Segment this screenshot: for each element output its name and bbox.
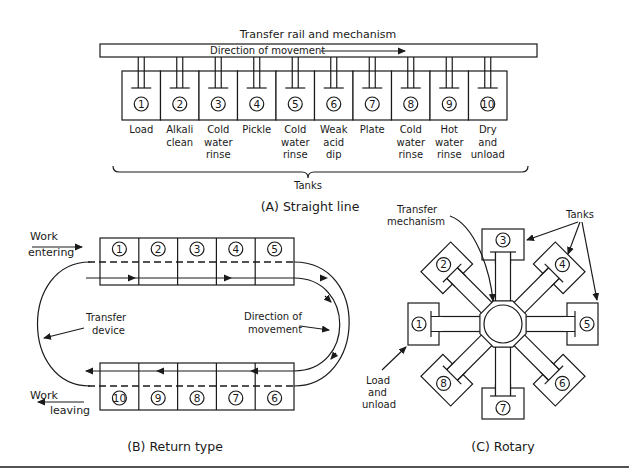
tank-label: Cold xyxy=(400,124,422,135)
tank-label: unload xyxy=(471,149,505,160)
transfer-mechanism-label-1: Transfer xyxy=(396,204,438,215)
tank-label: rinse xyxy=(206,149,231,160)
tank-4: 4Pickle xyxy=(238,57,277,135)
tank-8: 8Coldwaterrinse xyxy=(392,57,431,160)
tank-7: 7Plate xyxy=(353,57,392,135)
rail-label: Transfer rail and mechanism xyxy=(239,28,397,41)
tank-box xyxy=(161,71,200,120)
tank-label: rinse xyxy=(283,149,308,160)
tanks-pointer-1-icon xyxy=(527,222,578,240)
tank-number: 10 xyxy=(481,98,494,110)
tank-label: water xyxy=(435,137,464,148)
work-entering-label-2: entering xyxy=(28,246,74,259)
tank-label: Dry xyxy=(479,124,497,135)
rotary-tanks-label: Tanks xyxy=(565,209,594,220)
tank-number: 1 xyxy=(138,98,145,110)
tank-number: 6 xyxy=(559,377,566,389)
tank-number: 2 xyxy=(176,98,183,110)
tank-number: 7 xyxy=(232,392,239,404)
load-unload-label-3: unload xyxy=(362,399,396,410)
tank-box xyxy=(315,71,354,120)
direction-label: Direction of movement xyxy=(210,45,325,56)
tank-label: Plate xyxy=(360,124,385,135)
direction-label-2: movement xyxy=(248,324,302,335)
plating-line-diagram: Transfer rail and mechanism Direction of… xyxy=(0,0,629,474)
caption-rotary: (C) Rotary xyxy=(471,439,535,454)
tank-label: rinse xyxy=(398,149,423,160)
tank-2: 2Alkaliclean xyxy=(161,57,200,148)
tank-box xyxy=(276,71,315,120)
transfer-mechanism-hub xyxy=(480,301,526,347)
tank-number: 8 xyxy=(407,98,414,110)
tank-9: 9Hotwaterrinse xyxy=(430,57,469,160)
tank-number: 5 xyxy=(584,318,591,330)
transfer-device-label-1: Transfer xyxy=(85,312,127,323)
tanks-pointer-3-icon xyxy=(582,222,597,300)
tank-number: 7 xyxy=(369,98,376,110)
tank-box xyxy=(392,71,431,120)
work-leaving-label-2: leaving xyxy=(50,404,90,417)
load-unload-label-2: and xyxy=(368,387,387,398)
tank-label: Hot xyxy=(440,124,458,135)
return-type-section: 12345 109876 Work entering Work leaving … xyxy=(28,230,349,454)
tank-number: 5 xyxy=(292,98,299,110)
tank-number: 6 xyxy=(271,392,278,404)
straight-line-section: Transfer rail and mechanism Direction of… xyxy=(100,28,537,214)
transfer-mechanism-label-2: mechanism xyxy=(387,216,445,227)
tank-number: 4 xyxy=(559,258,566,270)
rotary-tank-5: 5 xyxy=(525,303,598,345)
tank-number: 8 xyxy=(194,392,201,404)
tank-6: 6Weakaciddip xyxy=(315,57,354,160)
loop-arrow-right-top xyxy=(325,296,331,302)
rotary-section: 12345678 Transfer mechanism Tanks Load a… xyxy=(362,204,598,454)
tank-label: dip xyxy=(326,149,341,160)
tank-box xyxy=(469,71,508,120)
tank-box xyxy=(238,71,277,120)
tanks-pointer-2-icon xyxy=(568,222,580,254)
tank-number: 8 xyxy=(440,377,447,389)
rotary-tank-1: 1 xyxy=(408,303,481,345)
tanks-brace xyxy=(113,166,528,178)
tank-box xyxy=(199,71,238,120)
tank-number: 4 xyxy=(232,243,239,255)
caption-return-type: (B) Return type xyxy=(127,439,223,454)
tanks-label: Tanks xyxy=(293,180,322,191)
tank-number: 4 xyxy=(253,98,260,110)
tank-number: 7 xyxy=(500,402,507,414)
tank-number: 2 xyxy=(155,243,162,255)
tank-5: 5Coldwaterrinse xyxy=(276,57,315,160)
load-unload-pointer-icon xyxy=(382,347,406,370)
tank-label: Load xyxy=(129,124,153,135)
tank-number: 10 xyxy=(113,392,126,404)
tank-label: and xyxy=(478,137,497,148)
tank-number: 3 xyxy=(500,234,507,246)
tank-box xyxy=(122,71,161,120)
work-leaving-label-1: Work xyxy=(30,389,58,402)
tank-number: 1 xyxy=(416,318,423,330)
tank-10: 10Dryandunload xyxy=(469,57,508,160)
tank-number: 9 xyxy=(155,392,162,404)
tank-number: 3 xyxy=(215,98,222,110)
tank-number: 6 xyxy=(330,98,337,110)
rotary-tank-3: 3 xyxy=(482,229,524,302)
flow-arrow-icon xyxy=(320,275,328,282)
tank-label: Pickle xyxy=(242,124,271,135)
tank-label: water xyxy=(281,137,310,148)
tank-row: 1Load2Alkaliclean3Coldwaterrinse4Pickle5… xyxy=(122,57,507,160)
tank-number: 3 xyxy=(194,243,201,255)
tank-label: Cold xyxy=(284,124,306,135)
load-unload-label-1: Load xyxy=(366,375,390,386)
tank-3: 3Coldwaterrinse xyxy=(199,57,238,160)
tank-label: Cold xyxy=(207,124,229,135)
tank-label: Alkali xyxy=(166,124,193,135)
tank-number: 1 xyxy=(116,243,123,255)
tank-label: acid xyxy=(323,137,344,148)
caption-straight-line: (A) Straight line xyxy=(261,199,360,214)
tank-number: 5 xyxy=(271,243,278,255)
tank-number: 2 xyxy=(440,258,447,270)
tank-1: 1Load xyxy=(122,57,161,135)
tank-label: water xyxy=(397,137,426,148)
work-entering-label-1: Work xyxy=(30,230,58,243)
transfer-device-pointer-icon xyxy=(44,328,84,338)
transfer-device-label-2: device xyxy=(92,325,125,336)
